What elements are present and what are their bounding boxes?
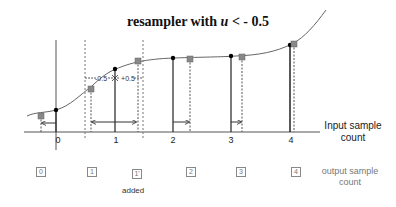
output-sample-1-prime: 1' <box>132 169 142 179</box>
output-sample-1: 1 <box>87 167 97 177</box>
added-label: added <box>122 186 144 195</box>
output-point <box>291 41 297 47</box>
output-point <box>88 86 94 92</box>
tick-label: 2 <box>170 135 175 145</box>
tick-label: 0 <box>55 135 60 145</box>
output-sample-3: 3 <box>236 167 246 177</box>
tick-label: 4 <box>288 135 293 145</box>
output-point <box>38 113 44 119</box>
output-axis-label: output sample count <box>315 166 385 188</box>
output-sample-0: 0 <box>36 167 46 177</box>
output-sample-4: 4 <box>291 167 301 177</box>
tick-label: 3 <box>228 135 233 145</box>
input-point <box>229 54 233 58</box>
output-sample-2: 2 <box>186 167 196 177</box>
output-point <box>135 58 141 64</box>
input-point <box>54 108 58 112</box>
tick-label: 1 <box>113 135 118 145</box>
input-point <box>171 56 175 60</box>
output-point <box>239 54 245 60</box>
input-axis-label: Input sample count <box>318 120 388 144</box>
input-point <box>113 67 117 71</box>
signal-curve <box>27 10 326 116</box>
output-point <box>187 56 193 62</box>
minus-half-label: -0.5 <box>95 75 107 82</box>
plus-half-label: +0.5 <box>121 75 135 82</box>
